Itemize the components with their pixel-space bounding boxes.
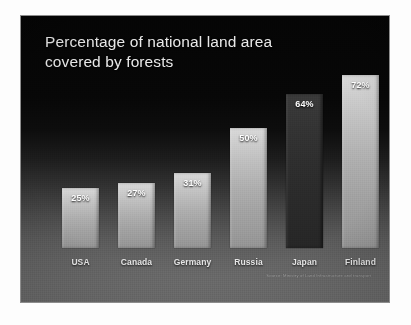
bar-germany: 31%: [174, 173, 211, 248]
bar-label-usa: USA: [55, 257, 106, 267]
bar-value-usa: 25%: [62, 193, 99, 203]
bar-label-germany: Germany: [167, 257, 218, 267]
bar-label-japan: Japan: [279, 257, 330, 267]
bar-finland: 72%: [342, 75, 379, 248]
bar-label-russia: Russia: [223, 257, 274, 267]
bar-value-canada: 27%: [118, 188, 155, 198]
screenshot-root: Percentage of national land area covered…: [0, 0, 411, 325]
bar-value-japan: 64%: [286, 99, 323, 109]
bar-label-finland: Finland: [335, 257, 386, 267]
bar-value-russia: 50%: [230, 133, 267, 143]
chart-slide: Percentage of national land area covered…: [21, 16, 389, 302]
bar-value-germany: 31%: [174, 178, 211, 188]
bar-russia: 50%: [230, 128, 267, 248]
bar-usa: 25%: [62, 188, 99, 248]
bar-value-finland: 72%: [342, 80, 379, 90]
source-note: Source: Ministry of Land Infrastructure …: [266, 273, 371, 278]
bar-chart-plot-area: 25% USA 27% Canada 31% Germany 50%: [21, 16, 389, 302]
bar-label-canada: Canada: [111, 257, 162, 267]
bar-japan: 64%: [286, 94, 323, 248]
bar-canada: 27%: [118, 183, 155, 248]
